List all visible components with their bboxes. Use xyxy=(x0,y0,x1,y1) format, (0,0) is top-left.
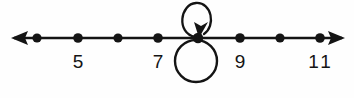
point-dot xyxy=(73,33,83,43)
number-line-figure: 5 7 9 11 xyxy=(0,0,354,98)
number-line-svg: 5 7 9 11 xyxy=(0,0,354,98)
tick-label-7: 7 xyxy=(153,51,164,72)
tick-label-11: 11 xyxy=(308,51,334,72)
point-dot xyxy=(275,33,284,42)
tick-label-5: 5 xyxy=(73,51,84,72)
point-dot xyxy=(32,33,41,42)
point-dot xyxy=(153,33,163,43)
tick-label-9: 9 xyxy=(235,51,246,72)
circle-below-point xyxy=(175,40,217,82)
point-dot xyxy=(113,33,122,42)
point-dot xyxy=(235,33,245,43)
self-loop-arrow-path xyxy=(182,3,211,37)
point-dot xyxy=(315,33,325,43)
